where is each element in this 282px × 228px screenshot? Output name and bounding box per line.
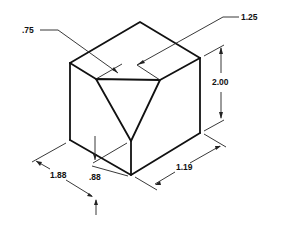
dimension-top-left: .75 [22,25,122,79]
dimension-right-width: 1.19 [135,134,226,190]
dim-label-125: 1.25 [241,12,258,22]
dim-label-088: .88 [89,172,101,182]
dim-label-075: .75 [22,25,34,35]
dim-label-119: 1.19 [176,162,193,172]
block-outline [70,22,200,175]
dim-label-200: 2.00 [212,77,229,87]
dimension-height: 2.00 [204,45,229,131]
dim-label-188: 1.88 [50,170,67,180]
dimension-top-right: 1.25 [137,12,258,80]
dimension-cut-depth: .88 [89,136,127,215]
isometric-drawing: .75 1.25 2.00 1.19 1.88 [0,0,282,228]
